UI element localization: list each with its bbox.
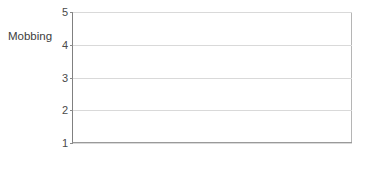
bar-chart: Mobbing 12345: [0, 0, 367, 174]
gridline: [73, 45, 352, 46]
y-axis-tick-mark: [70, 78, 73, 79]
y-axis-tick-mark: [70, 12, 73, 13]
gridline: [73, 78, 352, 79]
gridline: [73, 12, 352, 13]
y-axis-tick-mark: [70, 143, 73, 144]
plot-area: 12345: [72, 12, 352, 143]
gridline: [73, 143, 352, 144]
y-axis-title: Mobbing: [8, 30, 52, 42]
y-axis-tick-mark: [70, 45, 73, 46]
y-axis-tick-mark: [70, 110, 73, 111]
gridline: [73, 110, 352, 111]
